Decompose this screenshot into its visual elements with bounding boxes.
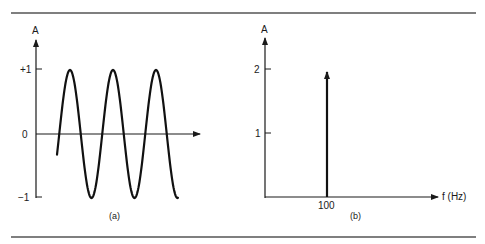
panel-b-xtick-100: 100 xyxy=(318,200,335,211)
panel-b-caption: (b) xyxy=(350,211,361,221)
panel-a: A +1 0 −1 (a) xyxy=(18,25,200,221)
panel-a-caption: (a) xyxy=(109,211,120,221)
panel-b-ytick-1: 1 xyxy=(255,128,261,139)
panel-b-x-label: f (Hz) xyxy=(442,191,466,202)
panel-a-ytick-plus1: +1 xyxy=(20,64,32,75)
panel-a-ytick-minus1: −1 xyxy=(18,192,30,203)
panel-b: A f (Hz) 2 1 100 (b) xyxy=(254,24,466,221)
panel-b-ytick-2: 2 xyxy=(254,64,260,75)
figure: A +1 0 −1 (a) A f (Hz) 2 1 100 (b) xyxy=(0,0,485,244)
panel-a-ytick-0: 0 xyxy=(22,129,28,140)
panel-a-y-label: A xyxy=(32,25,39,36)
panel-b-y-label: A xyxy=(261,24,268,35)
